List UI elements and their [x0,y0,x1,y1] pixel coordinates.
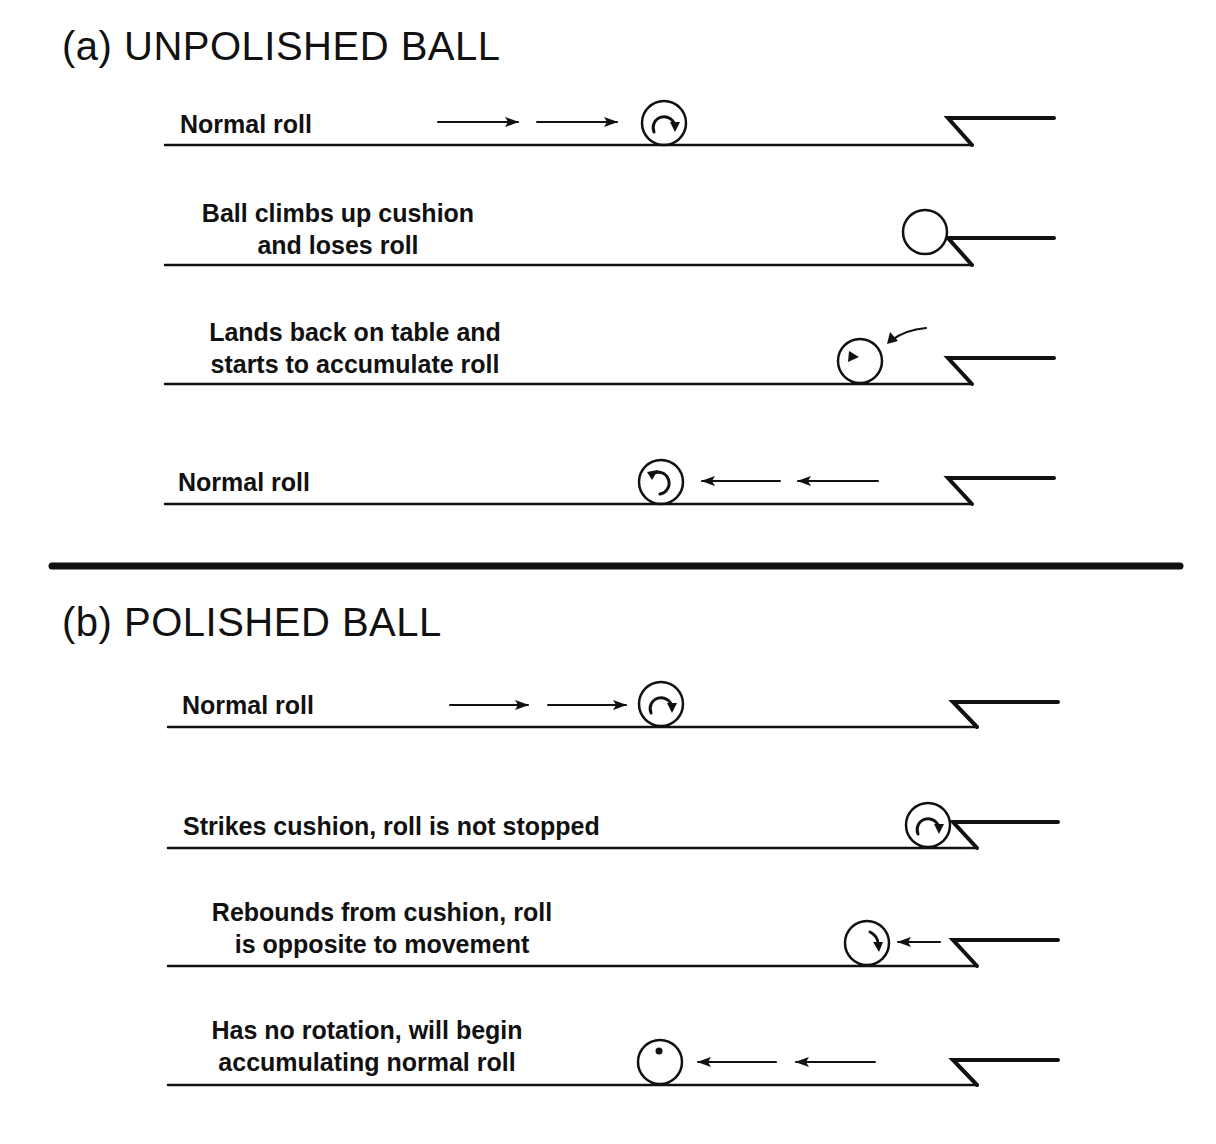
ball-forward-roll-icon [642,101,686,145]
table-line-b3 [168,940,1058,966]
ball-forward-roll-icon [639,682,683,726]
ball-reverse-spin-icon [845,921,889,965]
ball-backward-roll-icon [639,460,683,504]
table-line-b4 [168,1060,1058,1085]
curved-incoming-arrow-icon [887,328,926,344]
ball-no-rotation-icon [638,1040,682,1084]
ball-forward-roll-at-cushion-icon [906,803,950,847]
table-line-a4 [165,478,1054,504]
ball-accumulating-roll-icon [838,339,882,383]
diagram-canvas [0,0,1216,1144]
ball-plain-icon [903,210,947,254]
table-line-a3 [165,358,1054,384]
